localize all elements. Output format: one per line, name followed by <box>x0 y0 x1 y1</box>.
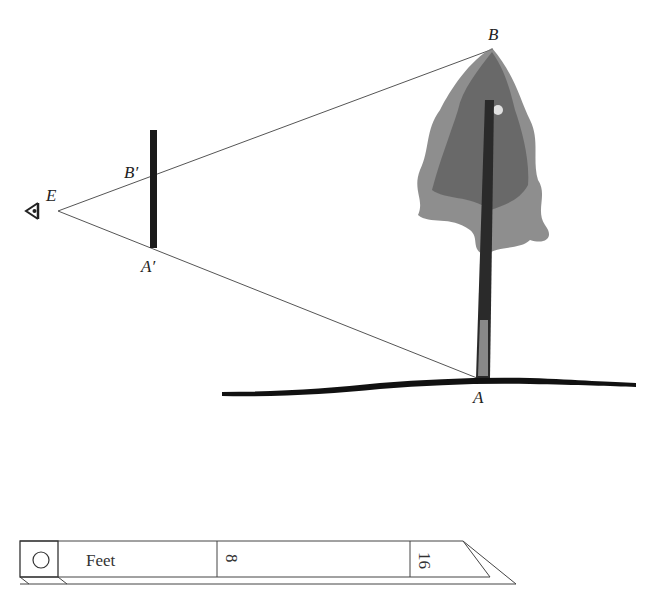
point-label-b-prime: B′ <box>124 163 138 182</box>
eye-icon <box>26 203 38 219</box>
ruler-end-box <box>20 541 58 577</box>
ground-line <box>222 378 636 396</box>
point-label-b: B <box>488 25 499 44</box>
ruler-unit-label: Feet <box>86 551 116 570</box>
ruler-mark-8: 8 <box>222 554 241 563</box>
sight-line-e-to-a <box>58 211 477 378</box>
ruler-mark-16: 16 <box>415 552 434 569</box>
point-label-e: E <box>45 186 57 205</box>
ruler-ring-icon <box>33 552 49 568</box>
tree-icon <box>417 48 549 378</box>
point-label-a: A <box>472 388 484 407</box>
similar-triangles-diagram: E B A B′ A′ Feet 8 16 <box>0 0 656 611</box>
measuring-stick <box>150 130 157 248</box>
point-label-a-prime: A′ <box>140 257 155 276</box>
